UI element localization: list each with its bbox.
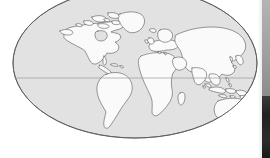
- world-map-svg[interactable]: [0, 0, 270, 158]
- scandinavia: [158, 29, 173, 42]
- korea-peninsula: [230, 57, 232, 62]
- screen-root: [0, 0, 270, 158]
- sri-lanka: [203, 86, 205, 89]
- iceland: [150, 29, 156, 33]
- hudson-bay: [95, 31, 107, 41]
- world-map-figure[interactable]: [0, 0, 270, 158]
